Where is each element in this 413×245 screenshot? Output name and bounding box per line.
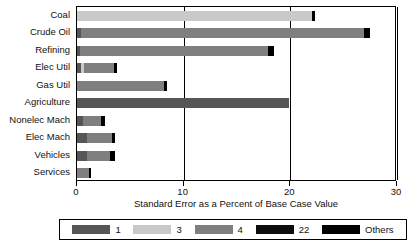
chart-figure: CoalCrude OilRefiningElec UtilGas UtilAg… xyxy=(0,0,413,245)
legend-label: 3 xyxy=(176,225,181,235)
y-axis-tick-label: Gas Util xyxy=(36,80,70,90)
legend-item[interactable]: 1 xyxy=(72,225,120,235)
bar-segment xyxy=(77,168,89,178)
legend-swatch xyxy=(195,225,233,234)
bar-segment xyxy=(164,81,167,91)
x-axis-tick-label: 20 xyxy=(284,186,295,197)
bar-segment xyxy=(89,168,91,178)
plot-wrapper: CoalCrude OilRefiningElec UtilGas UtilAg… xyxy=(0,0,413,190)
legend-label: 4 xyxy=(238,225,243,235)
legend-swatch xyxy=(72,225,110,234)
bar-segment xyxy=(112,133,116,143)
x-axis-tick-label: 10 xyxy=(177,186,188,197)
y-axis-labels: CoalCrude OilRefiningElec UtilGas UtilAg… xyxy=(0,6,74,181)
bar-row xyxy=(77,11,397,21)
y-axis-tick-label: Agriculture xyxy=(25,97,70,107)
legend-label: 22 xyxy=(299,225,310,235)
bar-segment xyxy=(83,116,101,126)
bar-row xyxy=(77,133,397,143)
gridline xyxy=(397,7,398,180)
bar-segment xyxy=(87,133,112,143)
bar-row xyxy=(77,168,397,178)
bar-segment xyxy=(364,28,369,38)
y-axis-tick-label: Services xyxy=(34,167,70,177)
bar-segment xyxy=(84,63,114,73)
bar-segment xyxy=(77,81,164,91)
bar-segment xyxy=(312,11,316,21)
legend-item[interactable]: 22 xyxy=(256,225,310,235)
chart-legend: 13422Others xyxy=(59,219,407,240)
legend-swatch xyxy=(256,225,294,234)
bar-segment xyxy=(77,133,87,143)
bar-segment xyxy=(77,151,87,161)
plot-area xyxy=(76,6,396,181)
y-axis-tick-label: Elec Util xyxy=(35,62,70,72)
bar-segment xyxy=(77,98,289,108)
legend-swatch xyxy=(133,225,171,234)
bar-segment xyxy=(114,63,117,73)
bar-segment xyxy=(268,46,274,56)
legend-label: 1 xyxy=(115,225,120,235)
bar-row xyxy=(77,63,397,73)
bar-segment xyxy=(101,116,105,126)
bar-segment xyxy=(81,28,365,38)
y-axis-tick-label: Crude Oil xyxy=(30,27,70,37)
x-axis xyxy=(76,181,396,187)
bar-segment xyxy=(110,151,115,161)
bar-row xyxy=(77,98,397,108)
bar-row xyxy=(77,81,397,91)
y-axis-tick-label: Nonelec Mach xyxy=(9,115,70,125)
bar-row xyxy=(77,151,397,161)
x-axis-tick-label: 30 xyxy=(391,186,402,197)
legend-item[interactable]: 4 xyxy=(195,225,243,235)
y-axis-tick-label: Refining xyxy=(35,45,70,55)
x-axis-title: Standard Error as a Percent of Base Case… xyxy=(76,198,396,210)
x-axis-tick-label: 0 xyxy=(73,186,78,197)
legend-swatch xyxy=(322,225,360,234)
legend-item[interactable]: 3 xyxy=(133,225,181,235)
bar-row xyxy=(77,116,397,126)
legend-item[interactable]: Others xyxy=(322,225,394,235)
bar-row xyxy=(77,28,397,38)
bar-segment xyxy=(77,11,312,21)
bar-segment xyxy=(87,151,109,161)
y-axis-tick-label: Coal xyxy=(50,10,70,20)
y-axis-tick-label: Elec Mach xyxy=(26,132,70,142)
legend-label: Others xyxy=(365,225,394,235)
bar-segment xyxy=(80,46,268,56)
y-axis-tick-label: Vehicles xyxy=(35,150,70,160)
bar-row xyxy=(77,46,397,56)
